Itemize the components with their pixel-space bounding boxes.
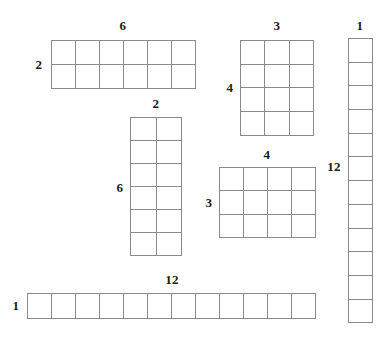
array-12-by-1-top-label: 12 xyxy=(165,273,179,286)
array-3-by-4 xyxy=(240,40,314,136)
grid-cell xyxy=(100,294,124,319)
grid-cell xyxy=(157,210,183,233)
grid-cell xyxy=(349,39,373,63)
grid-cell xyxy=(100,41,124,65)
grid-cell xyxy=(292,191,316,214)
array-2-by-6-left-label: 6 xyxy=(117,181,124,194)
grid-cell xyxy=(131,164,157,187)
grid-cell xyxy=(349,110,373,134)
grid-cell xyxy=(244,294,268,319)
grid-cell xyxy=(292,294,316,319)
grid-cell xyxy=(220,215,244,238)
grid-cell xyxy=(76,294,100,319)
array-12-by-1-left-label: 1 xyxy=(13,299,20,312)
grid-cell xyxy=(292,168,316,191)
grid-cell xyxy=(244,191,268,214)
grid-cell xyxy=(241,65,265,89)
grid-cell xyxy=(131,141,157,164)
grid-cell xyxy=(292,215,316,238)
grid-cell xyxy=(241,88,265,112)
grid-cell xyxy=(157,164,183,187)
grid-cell xyxy=(131,210,157,233)
grid-cell xyxy=(157,187,183,210)
grid-cell xyxy=(268,191,292,214)
array-3-by-4-left-label: 4 xyxy=(227,81,234,94)
array-4-by-3 xyxy=(219,167,316,238)
grid-cell xyxy=(76,41,100,65)
grid-cell xyxy=(220,168,244,191)
grid-cell xyxy=(196,294,220,319)
grid-cell xyxy=(349,181,373,205)
array-12-by-1 xyxy=(27,293,316,319)
grid-cell xyxy=(172,294,196,319)
grid-cell xyxy=(148,41,172,65)
grid-cell xyxy=(244,168,268,191)
grid-cell xyxy=(349,252,373,276)
grid-cell xyxy=(290,41,314,65)
grid-cell xyxy=(131,118,157,141)
grid-cell xyxy=(172,65,196,89)
grid-cell xyxy=(349,205,373,229)
grid-cell xyxy=(124,41,148,65)
array-4-by-3-left-label: 3 xyxy=(206,196,213,209)
grid-cell xyxy=(124,294,148,319)
grid-cell xyxy=(349,276,373,300)
array-1-by-12-top-label: 1 xyxy=(357,19,364,32)
grid-cell xyxy=(349,63,373,87)
array-4-by-3-top-label: 4 xyxy=(264,148,271,161)
array-2-by-6 xyxy=(130,117,182,256)
grid-cell xyxy=(290,65,314,89)
grid-cell xyxy=(148,65,172,89)
grid-cell xyxy=(265,112,289,136)
grid-cell xyxy=(124,65,148,89)
diagram-canvas: 62341122643121 xyxy=(0,0,390,340)
grid-cell xyxy=(349,300,373,324)
array-6-by-2-left-label: 2 xyxy=(36,58,43,71)
grid-cell xyxy=(52,41,76,65)
grid-cell xyxy=(349,134,373,158)
grid-cell xyxy=(244,215,268,238)
grid-cell xyxy=(265,65,289,89)
grid-cell xyxy=(157,141,183,164)
grid-cell xyxy=(52,294,76,319)
grid-cell xyxy=(220,191,244,214)
grid-cell xyxy=(157,118,183,141)
grid-cell xyxy=(349,157,373,181)
grid-cell xyxy=(100,65,124,89)
array-1-by-12-left-label: 12 xyxy=(327,160,341,173)
grid-cell xyxy=(290,112,314,136)
array-6-by-2 xyxy=(51,40,196,89)
grid-cell xyxy=(28,294,52,319)
array-1-by-12 xyxy=(348,38,373,323)
grid-cell xyxy=(157,233,183,256)
grid-cell xyxy=(268,215,292,238)
grid-cell xyxy=(52,65,76,89)
grid-cell xyxy=(131,187,157,210)
grid-cell xyxy=(349,229,373,253)
grid-cell xyxy=(290,88,314,112)
grid-cell xyxy=(265,41,289,65)
array-2-by-6-top-label: 2 xyxy=(153,97,160,110)
grid-cell xyxy=(220,294,244,319)
grid-cell xyxy=(265,88,289,112)
grid-cell xyxy=(349,86,373,110)
array-3-by-4-top-label: 3 xyxy=(274,19,281,32)
grid-cell xyxy=(268,168,292,191)
grid-cell xyxy=(131,233,157,256)
array-6-by-2-top-label: 6 xyxy=(120,19,127,32)
grid-cell xyxy=(76,65,100,89)
grid-cell xyxy=(241,41,265,65)
grid-cell xyxy=(241,112,265,136)
grid-cell xyxy=(172,41,196,65)
grid-cell xyxy=(268,294,292,319)
grid-cell xyxy=(148,294,172,319)
